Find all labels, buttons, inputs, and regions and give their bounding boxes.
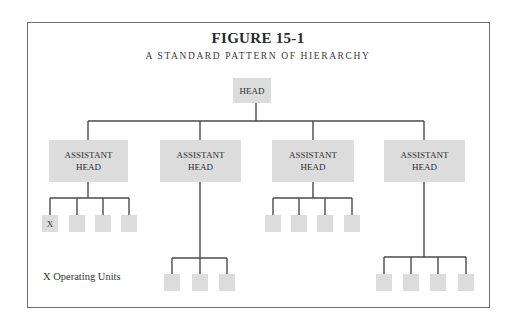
head-label: HEAD	[240, 85, 265, 97]
operating-unit	[291, 215, 307, 232]
operating-unit	[164, 274, 180, 291]
operating-unit	[376, 274, 392, 291]
operating-unit	[95, 215, 111, 232]
assistant-label-line1: ASSISTANT	[401, 149, 449, 161]
operating-unit	[403, 274, 419, 291]
assistant-label-line2: HEAD	[412, 161, 437, 173]
legend-text: X Operating Units	[43, 271, 121, 282]
operating-unit	[458, 274, 474, 291]
assistant-head-node-1: ASSISTANT HEAD	[49, 140, 128, 182]
assistant-label-line2: HEAD	[188, 161, 213, 173]
assistant-head-node-4: ASSISTANT HEAD	[384, 140, 465, 182]
assistant-label-line2: HEAD	[301, 161, 326, 173]
operating-unit	[317, 215, 333, 232]
assistant-label-line2: HEAD	[76, 161, 101, 173]
assistant-head-node-3: ASSISTANT HEAD	[272, 140, 354, 182]
operating-unit	[121, 215, 137, 232]
assistant-label-line1: ASSISTANT	[289, 149, 337, 161]
operating-unit: X	[42, 215, 58, 232]
operating-unit	[430, 274, 446, 291]
assistant-label-line1: ASSISTANT	[177, 149, 225, 161]
assistant-head-node-2: ASSISTANT HEAD	[160, 140, 241, 182]
unit-marker: X	[47, 219, 54, 229]
head-node: HEAD	[233, 78, 271, 103]
operating-unit	[344, 215, 360, 232]
assistant-label-line1: ASSISTANT	[65, 149, 113, 161]
operating-unit	[219, 274, 235, 291]
operating-unit	[265, 215, 281, 232]
operating-unit	[192, 274, 208, 291]
operating-unit	[69, 215, 85, 232]
